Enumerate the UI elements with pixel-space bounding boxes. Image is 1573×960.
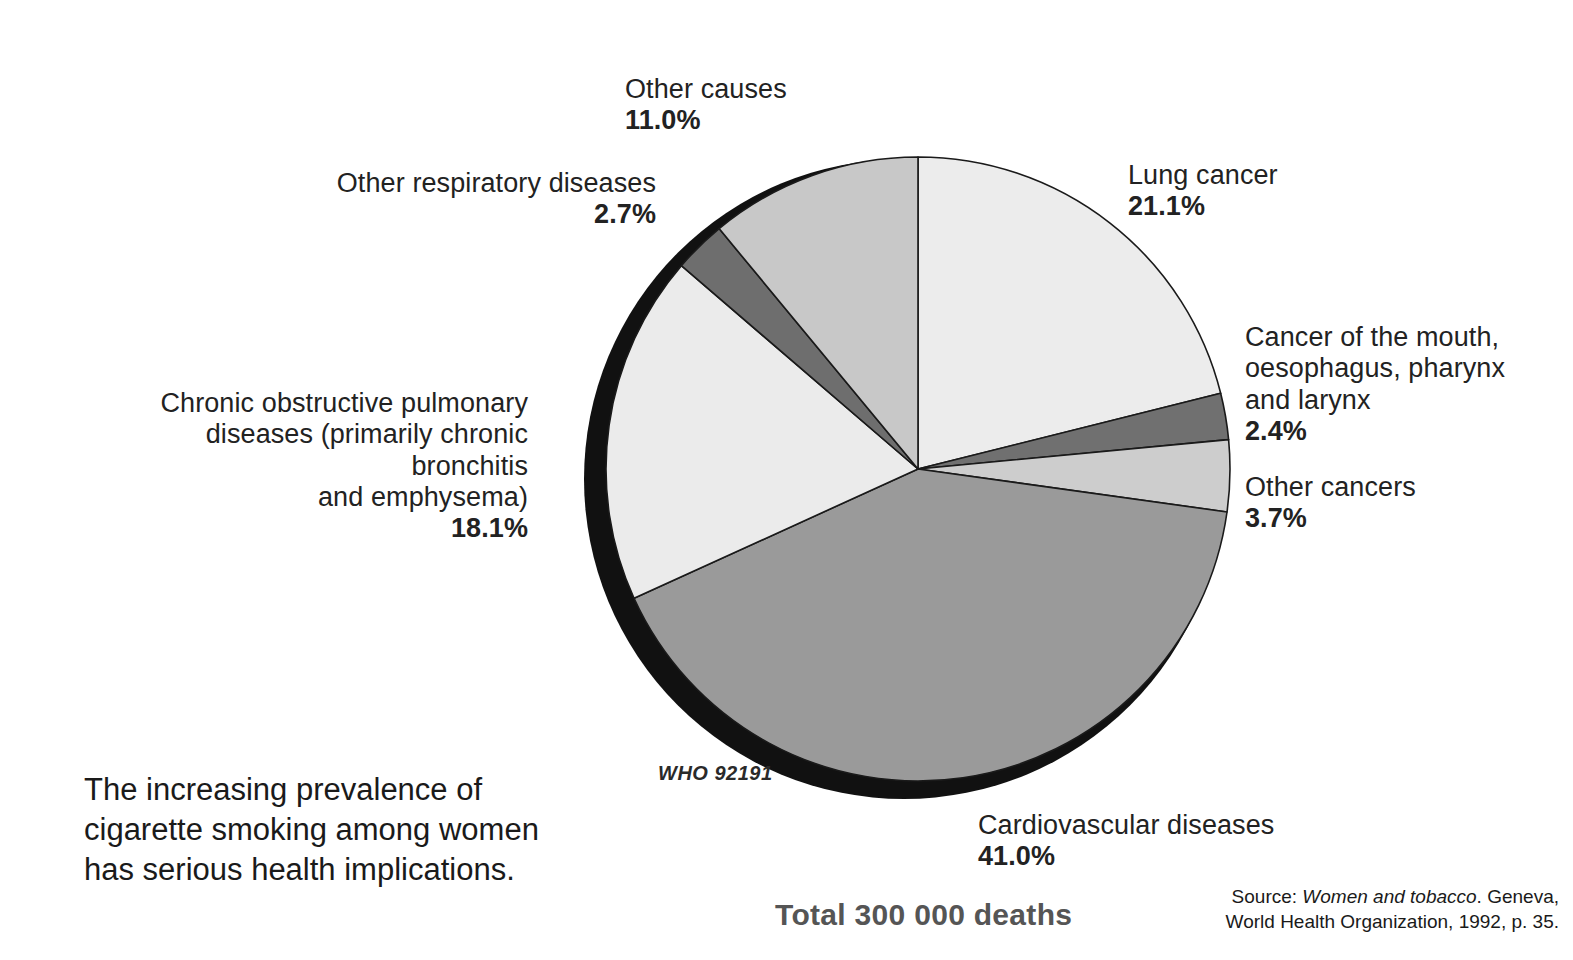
label-cardiovascular-value: 41.0% — [978, 841, 1274, 872]
label-other-causes: Other causes 11.0% — [625, 74, 787, 137]
source-prefix: Source: — [1232, 886, 1303, 907]
label-mouth-cancer: Cancer of the mouth, oesophagus, pharynx… — [1245, 322, 1565, 447]
label-mouth-cancer-value: 2.4% — [1245, 416, 1565, 447]
label-other-respiratory-value: 2.7% — [336, 199, 656, 230]
label-mouth-cancer-name-line3: and larynx — [1245, 385, 1565, 416]
label-lung-cancer-name: Lung cancer — [1128, 160, 1278, 191]
label-mouth-cancer-name-line2: oesophagus, pharynx — [1245, 353, 1565, 384]
label-lung-cancer-value: 21.1% — [1128, 191, 1278, 222]
label-other-causes-name: Other causes — [625, 74, 787, 105]
label-cardiovascular-name: Cardiovascular diseases — [978, 810, 1274, 841]
label-mouth-cancer-name-line1: Cancer of the mouth, — [1245, 322, 1565, 353]
label-other-cancers-name: Other cancers — [1245, 472, 1545, 503]
label-other-respiratory-name: Other respiratory diseases — [336, 168, 656, 199]
label-copd-name-line1: Chronic obstructive pulmonary — [88, 388, 528, 419]
label-copd-name-line2: diseases (primarily chronic bronchitis — [88, 419, 528, 482]
source-citation: Source: Women and tobacco. Geneva, World… — [1199, 884, 1559, 935]
label-other-cancers: Other cancers 3.7% — [1245, 472, 1545, 535]
label-other-respiratory-diseases: Other respiratory diseases 2.7% — [336, 168, 656, 231]
label-lung-cancer: Lung cancer 21.1% — [1128, 160, 1278, 223]
label-copd-name-line3: and emphysema) — [88, 482, 528, 513]
who-code-watermark: WHO 92191 — [658, 762, 773, 785]
source-title: Women and tobacco — [1302, 886, 1476, 907]
chart-canvas: Other causes 11.0% Other respiratory dis… — [0, 0, 1573, 960]
label-copd: Chronic obstructive pulmonary diseases (… — [88, 388, 528, 545]
label-copd-value: 18.1% — [88, 513, 528, 544]
label-other-causes-value: 11.0% — [625, 105, 787, 136]
label-cardiovascular-diseases: Cardiovascular diseases 41.0% — [978, 810, 1274, 873]
label-other-cancers-value: 3.7% — [1245, 503, 1545, 534]
total-deaths-label: Total 300 000 deaths — [775, 898, 1072, 932]
caption-text: The increasing prevalence of cigarette s… — [84, 770, 554, 890]
pie-slices — [606, 157, 1230, 781]
